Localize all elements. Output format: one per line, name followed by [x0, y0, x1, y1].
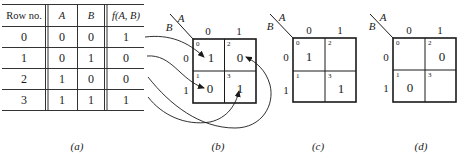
row-3-no: 3 [21, 93, 27, 108]
map-d-col-0: 0 [406, 24, 412, 36]
map-b-idx-3: 3 [227, 72, 231, 80]
map-b-idx-2: 2 [227, 40, 231, 48]
map-b-var-b: B [166, 21, 173, 33]
map-b-var-a: A [178, 12, 185, 24]
row-1-a: 0 [59, 51, 65, 66]
map-b-idx-0: 0 [196, 40, 200, 48]
map-c-var-b: B [267, 20, 274, 32]
row-3-a: 1 [59, 93, 65, 108]
map-d-var-b: B [369, 20, 376, 32]
map-d-var-a: A [380, 11, 387, 23]
caption-b: (b) [212, 140, 225, 152]
map-b-row-0: 0 [183, 52, 189, 64]
map-d-row-1: 1 [383, 82, 389, 94]
header-f: f(A, B) [112, 10, 140, 21]
caption-c: (c) [312, 140, 324, 152]
map-b-row-1: 1 [183, 84, 189, 96]
map-c-col-0: 0 [306, 24, 312, 36]
map-d-idx-0: 0 [396, 39, 400, 47]
header-a: A [59, 10, 65, 21]
map-c-cell-0: 1 [306, 49, 313, 65]
row-2-b: 0 [88, 72, 94, 87]
map-c-var-a: A [279, 11, 286, 23]
map-b-cell-2: 0 [237, 50, 244, 66]
row-0-f: 1 [123, 30, 129, 45]
map-c-idx-3: 3 [328, 72, 332, 80]
map-d-idx-1: 1 [396, 71, 400, 79]
figure-lines [0, 0, 464, 162]
row-0-no: 0 [21, 30, 27, 45]
map-d-row-0: 0 [383, 51, 389, 63]
map-c-idx-0: 0 [296, 39, 300, 47]
caption-d: (d) [415, 140, 428, 152]
map-d-cell-1: 0 [407, 80, 414, 96]
map-b-col-1: 1 [236, 25, 242, 37]
map-b-col-0: 0 [205, 25, 211, 37]
row-1-b: 1 [88, 51, 94, 66]
row-0-a: 0 [59, 30, 65, 45]
map-c-row-1: 1 [283, 84, 289, 96]
row-1-f: 0 [123, 51, 129, 66]
header-row-no: Row no. [6, 10, 42, 21]
row-0-b: 0 [88, 30, 94, 45]
row-1-no: 1 [21, 51, 27, 66]
map-c-row-0: 0 [283, 51, 289, 63]
row-3-f: 1 [123, 93, 129, 108]
karnaugh-map-figure: Row no. A B f(A, B) 0 0 0 1 1 0 1 0 2 1 … [0, 0, 464, 162]
caption-a: (a) [71, 140, 84, 152]
map-d-cell-2: 0 [439, 49, 446, 65]
map-b-cell-3: 1 [237, 81, 244, 97]
map-b-cell-0: 1 [208, 50, 215, 66]
row-3-b: 1 [88, 93, 94, 108]
map-d-idx-2: 2 [428, 39, 432, 47]
map-b-cell-1: 0 [207, 81, 214, 97]
row-2-a: 1 [59, 72, 65, 87]
map-c-cell-3: 1 [338, 81, 345, 97]
map-c-idx-1: 1 [296, 72, 300, 80]
map-c-idx-2: 2 [328, 39, 332, 47]
row-2-no: 2 [21, 72, 27, 87]
row-2-f: 0 [123, 72, 129, 87]
header-b: B [88, 10, 94, 21]
map-d-idx-3: 3 [428, 71, 432, 79]
map-c-col-1: 1 [337, 24, 343, 36]
map-d-col-1: 1 [437, 24, 443, 36]
map-b-idx-1: 1 [196, 72, 200, 80]
